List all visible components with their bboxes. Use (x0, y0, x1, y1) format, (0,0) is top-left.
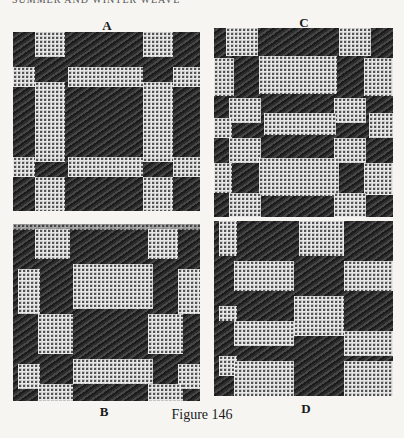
running-head: SUMMER AND WINTER WEAVE (12, 0, 180, 5)
fabric-sample-b (13, 224, 200, 401)
fabric-sample-a (13, 32, 200, 211)
fabric-sample-c (214, 28, 393, 217)
fabric-sample-d (214, 221, 393, 396)
figure-caption: Figure 146 (0, 407, 404, 423)
